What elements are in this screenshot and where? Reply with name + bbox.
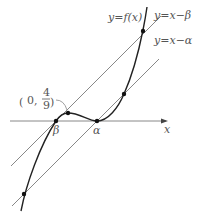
intercept-label: ( 0, 4 9 ) [19,86,54,112]
point-intercept [66,111,70,115]
alpha-label: α [93,124,101,137]
svg-text:4: 4 [43,86,50,99]
svg-text:0,: 0, [27,94,38,107]
point-alpha [95,119,99,123]
curve-f [21,7,147,211]
intercept-leader-line [56,100,67,110]
svg-text:): ) [50,96,54,109]
point-beta [54,119,58,123]
x-axis-label: x [164,123,171,136]
line-y-x-minus-alpha [12,59,159,206]
point-tangent-alpha-line [122,92,126,96]
graph-diagram: x β α ( 0, 4 9 ) y=f(x) y=x−β y=x−α [0,0,203,215]
curve-label: y=f(x) [107,11,142,24]
line-beta-label: y=x−β [153,9,191,22]
beta-label: β [52,124,59,137]
line-alpha-label: y=x−α [153,34,193,47]
point-bottom-intersection [22,192,26,196]
line-y-x-minus-beta [11,16,161,166]
point-top-intersection [141,29,145,33]
svg-text:(: ( [19,96,23,109]
svg-text:9: 9 [43,99,50,112]
